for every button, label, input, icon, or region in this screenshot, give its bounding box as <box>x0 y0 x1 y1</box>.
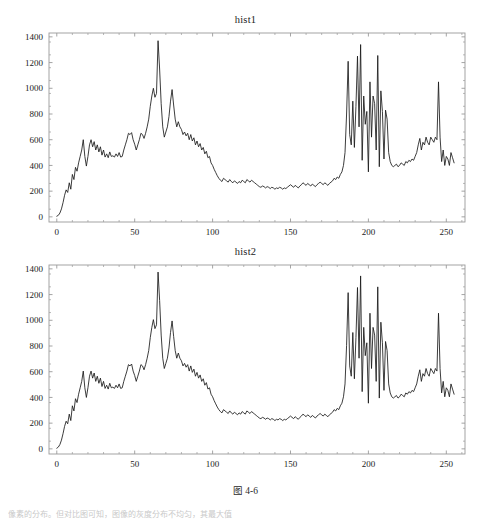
x-tick-label-0-3: 150 <box>284 227 298 237</box>
y-tick-label-1-5: 1000 <box>25 315 44 325</box>
chart-svg-hist1: 0200400600800100012001400050100150200250 <box>0 14 491 250</box>
y-tick-label-0-6: 1200 <box>25 58 44 68</box>
y-tick-label-1-0: 0 <box>39 444 44 454</box>
y-tick-label-0-7: 1400 <box>25 32 44 42</box>
y-tick-label-1-1: 200 <box>30 418 44 428</box>
y-tick-label-1-2: 400 <box>30 393 44 403</box>
y-tick-label-1-6: 1200 <box>25 290 44 300</box>
y-tick-label-1-3: 600 <box>30 367 44 377</box>
y-tick-label-0-3: 600 <box>30 135 44 145</box>
x-tick-label-0-4: 200 <box>362 227 376 237</box>
y-tick-label-0-4: 800 <box>30 109 44 119</box>
y-tick-label-0-0: 0 <box>39 212 44 222</box>
figure-caption: 图 4-6 <box>0 483 491 497</box>
plot-frame-0 <box>49 33 465 222</box>
y-tick-label-0-1: 200 <box>30 186 44 196</box>
x-tick-label-0-0: 0 <box>55 227 60 237</box>
x-tick-label-0-2: 100 <box>206 227 220 237</box>
y-tick-label-0-2: 400 <box>30 161 44 171</box>
page-root: hist1 0200400600800100012001400050100150… <box>0 0 491 520</box>
body-text-line: 像素的分布。但对比图可知，图像的灰度分布不均匀，其最大值 <box>8 509 483 520</box>
plot-area-hist1: 0200400600800100012001400050100150200250 <box>0 14 491 250</box>
y-tick-label-1-4: 800 <box>30 341 44 351</box>
x-tick-label-1-0: 0 <box>55 459 60 469</box>
plot-area-hist2: 0200400600800100012001400050100150200250 <box>0 246 491 476</box>
figure-hist1: hist1 0200400600800100012001400050100150… <box>0 14 491 250</box>
data-curve-1 <box>57 272 454 448</box>
figure-hist2: hist2 0200400600800100012001400050100150… <box>0 246 491 476</box>
y-tick-label-0-5: 1000 <box>25 83 44 93</box>
x-tick-label-1-1: 50 <box>130 459 140 469</box>
data-curve-0 <box>57 41 454 217</box>
x-tick-label-1-2: 100 <box>206 459 220 469</box>
x-tick-label-0-5: 250 <box>440 227 454 237</box>
chart-svg-hist2: 0200400600800100012001400050100150200250 <box>0 246 491 476</box>
plot-frame-1 <box>49 265 465 454</box>
x-tick-label-0-1: 50 <box>130 227 140 237</box>
y-tick-label-1-7: 1400 <box>25 264 44 274</box>
x-tick-label-1-3: 150 <box>284 459 298 469</box>
x-tick-label-1-4: 200 <box>362 459 376 469</box>
x-tick-label-1-5: 250 <box>440 459 454 469</box>
